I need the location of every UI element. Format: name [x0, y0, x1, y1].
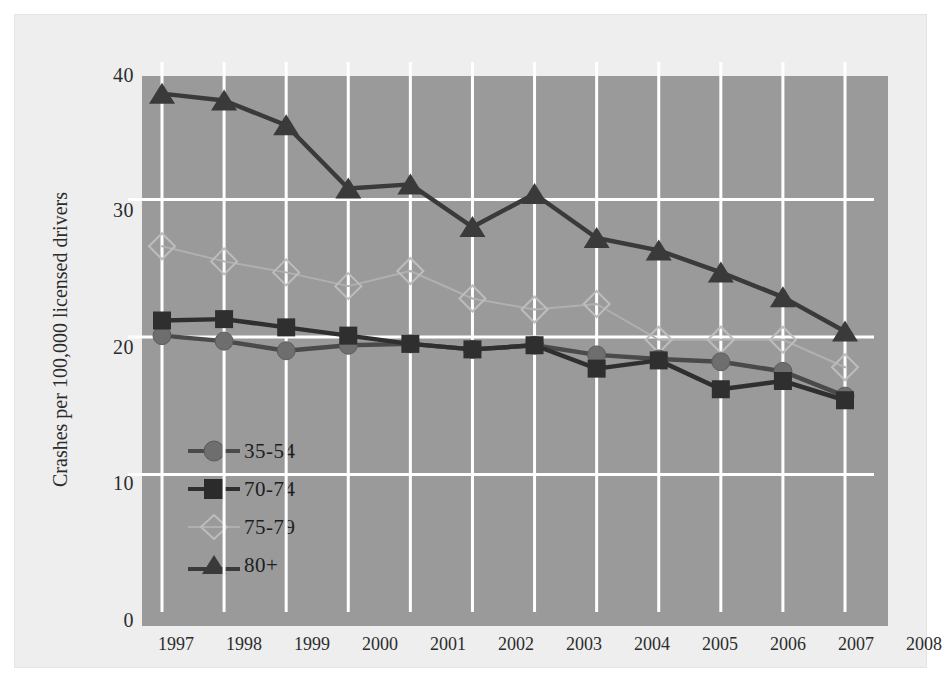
x-tick-2005: 2005 — [685, 634, 755, 655]
legend-item-75-79[interactable]: 75-79 — [186, 508, 366, 546]
legend-marker-square-icon — [186, 476, 242, 502]
x-tick-1998: 1998 — [209, 634, 279, 655]
y-tick-0: 0 — [88, 609, 134, 632]
y-tick-40: 40 — [88, 64, 134, 87]
x-tick-2007: 2007 — [821, 634, 891, 655]
legend-label-70-74: 70-74 — [244, 477, 296, 502]
y-tick-10: 10 — [88, 472, 134, 495]
chart-legend: 35-54 70-74 75-79 — [186, 432, 366, 584]
y-tick-30: 30 — [88, 199, 134, 222]
legend-label-80plus: 80+ — [244, 553, 278, 578]
legend-marker-circle-icon — [186, 438, 242, 464]
legend-item-35-54[interactable]: 35-54 — [186, 432, 366, 470]
x-tick-1999: 1999 — [277, 634, 347, 655]
x-tick-2001: 2001 — [413, 634, 483, 655]
legend-marker-triangle-icon — [186, 552, 242, 578]
x-tick-2000: 2000 — [345, 634, 415, 655]
x-tick-2004: 2004 — [617, 634, 687, 655]
y-axis-title: Crashes per 100,000 licensed drivers — [49, 105, 72, 575]
legend-item-80plus[interactable]: 80+ — [186, 546, 366, 584]
y-tick-20: 20 — [88, 336, 134, 359]
legend-marker-diamond-icon — [186, 514, 242, 540]
x-tick-2003: 2003 — [549, 634, 619, 655]
x-tick-2006: 2006 — [753, 634, 823, 655]
x-tick-2002: 2002 — [481, 634, 551, 655]
x-tick-2008: 2008 — [889, 634, 946, 655]
figure-frame: 40 30 20 10 0 Crashes per 100,000 licens… — [14, 14, 927, 668]
legend-item-70-74[interactable]: 70-74 — [186, 470, 366, 508]
legend-label-75-79: 75-79 — [244, 515, 296, 540]
x-tick-1997: 1997 — [141, 634, 211, 655]
legend-label-35-54: 35-54 — [244, 439, 296, 464]
